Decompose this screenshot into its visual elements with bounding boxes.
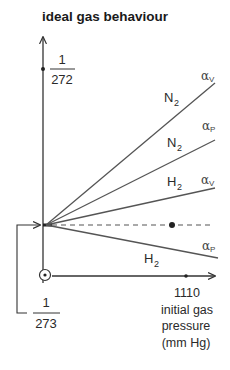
x-tick-label: 1110 (174, 286, 200, 300)
svg-text:N: N (164, 90, 173, 105)
line-h2-alpha-p (46, 225, 218, 258)
label-h2-alpha-p: H 2 α P (144, 239, 215, 269)
origin-dot (43, 273, 46, 276)
diagram-title: ideal gas behaviour (42, 9, 169, 24)
svg-text:H: H (167, 174, 176, 189)
bracket-arrow (17, 225, 40, 313)
line-n2-alpha-p (46, 140, 215, 225)
svg-text:2: 2 (177, 182, 182, 192)
svg-text:2: 2 (174, 98, 179, 108)
y-lower-numerator: 1 (42, 295, 49, 310)
svg-text:N: N (167, 135, 176, 150)
line-h2-alpha-v (46, 188, 215, 225)
svg-text:P: P (210, 125, 215, 134)
y-tick-dot-upper (41, 67, 45, 71)
ideal-line-dot (169, 222, 175, 228)
svg-text:H: H (144, 251, 153, 266)
y-upper-numerator: 1 (58, 52, 65, 67)
x-tick-dot (184, 274, 188, 278)
svg-text:V: V (209, 179, 215, 188)
svg-text:α: α (202, 239, 210, 253)
x-axis-label-line1: initial gas (161, 303, 213, 317)
svg-text:V: V (209, 75, 215, 84)
ideal-gas-diagram: ideal gas behaviour 1 272 1 273 N 2 α V … (0, 0, 230, 370)
svg-text:α: α (201, 173, 209, 187)
svg-text:P: P (210, 245, 215, 254)
svg-text:2: 2 (177, 143, 182, 153)
label-n2-alpha-p: N 2 α P (167, 119, 215, 153)
svg-text:α: α (202, 119, 210, 133)
line-n2-alpha-v (46, 83, 215, 225)
y-upper-denominator: 272 (51, 72, 73, 87)
svg-text:2: 2 (154, 259, 159, 269)
label-n2-alpha-v: N 2 α V (164, 69, 215, 108)
x-axis-label-line2: pressure (162, 319, 211, 333)
svg-text:α: α (201, 69, 209, 83)
y-lower-denominator: 273 (35, 316, 57, 331)
x-axis-label-line3: (mm Hg) (162, 336, 211, 350)
